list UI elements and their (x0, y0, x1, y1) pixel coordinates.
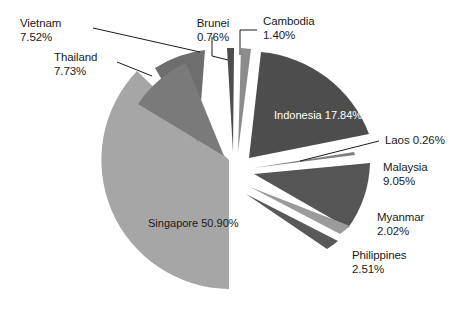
slice-percent-brunei: 0.76% (182, 31, 244, 45)
slice-name-brunei: Brunei (182, 17, 244, 31)
pie-slice-cambodia[interactable] (238, 48, 251, 152)
slice-percent-indonesia: 17.84% (325, 109, 362, 121)
slice-label-cambodia: Cambodia 1.40% (263, 15, 315, 42)
slice-label-brunei: Brunei 0.76% (182, 17, 244, 44)
slice-label-thailand: Thailand 7.73% (54, 51, 97, 78)
slice-name-myanmar: Myanmar (377, 211, 424, 225)
pie-chart-figure: Indonesia 17.84% Singapore 50.90% Vietna… (0, 0, 464, 323)
slice-label-laos: Laos 0.26% (385, 134, 445, 148)
slice-name-cambodia: Cambodia (263, 15, 315, 29)
slice-label-singapore: Singapore 50.90% (148, 217, 238, 231)
slice-name-vietnam: Vietnam (20, 17, 61, 31)
slice-percent-vietnam: 7.52% (20, 31, 61, 45)
pie-slice-indonesia[interactable] (249, 52, 369, 158)
slice-label-malaysia: Malaysia 9.05% (383, 161, 428, 188)
slice-percent-philippines: 2.51% (352, 263, 407, 277)
slice-percent-thailand: 7.73% (54, 65, 97, 79)
slice-name-laos: Laos (385, 134, 410, 146)
slice-label-indonesia: Indonesia 17.84% (274, 109, 344, 123)
pie-slice-brunei[interactable] (227, 48, 234, 152)
slice-label-myanmar: Myanmar 2.02% (377, 211, 424, 238)
slice-name-philippines: Philippines (352, 249, 407, 263)
slice-percent-singapore: 50.90% (201, 217, 238, 229)
slice-name-indonesia: Indonesia (274, 109, 322, 121)
slice-percent-cambodia: 1.40% (263, 29, 315, 43)
slice-label-philippines: Philippines 2.51% (352, 249, 407, 276)
slice-percent-laos: 0.26% (413, 134, 445, 146)
slice-label-vietnam: Vietnam 7.52% (20, 17, 61, 44)
slice-percent-myanmar: 2.02% (377, 225, 424, 239)
slice-name-malaysia: Malaysia (383, 161, 428, 175)
slice-name-thailand: Thailand (54, 51, 97, 65)
slice-percent-malaysia: 9.05% (383, 175, 428, 189)
slice-name-singapore: Singapore (148, 217, 198, 229)
